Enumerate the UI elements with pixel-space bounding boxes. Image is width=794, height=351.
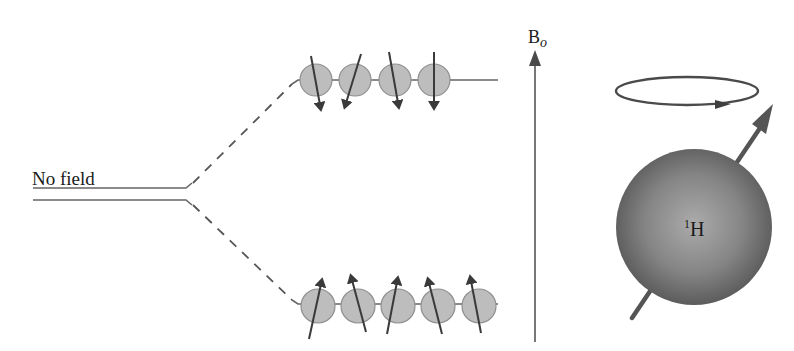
energy-splitting-diagram: No field (0, 0, 794, 351)
spin-down (339, 64, 371, 96)
field-label: Bo (528, 27, 547, 50)
hydrogen-nucleus: 1H (616, 149, 772, 305)
no-field-label: No field (32, 168, 95, 189)
arrow-up-icon (529, 50, 541, 66)
spin-axis-arrowhead-icon (752, 104, 773, 134)
precession-orbit (616, 77, 758, 109)
spin-up (381, 289, 415, 323)
magnetic-field-arrow: Bo (528, 27, 547, 342)
splitting-connectors (193, 84, 292, 300)
lower-energy-level (292, 280, 498, 339)
upper-energy-level (292, 52, 498, 105)
